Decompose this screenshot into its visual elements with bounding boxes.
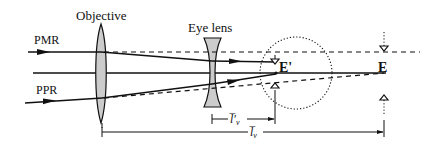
e-up-arrow-icon (380, 95, 388, 100)
dim-short-label: l̅′v (229, 112, 240, 127)
ppr-dashed-extension (104, 73, 384, 98)
e-label: E (378, 60, 387, 75)
telescope-ray-diagram: E' E l̅′v l̅v Objective Eye lens PMR PPR (0, 0, 426, 146)
e-down-arrow-icon (380, 46, 388, 51)
ppr-label: PPR (36, 83, 57, 97)
ppr-ray-exit (212, 74, 276, 84)
pmr-exit-arrow-icon (229, 59, 242, 65)
eye-lens-label: Eye lens (188, 20, 232, 35)
dim-long-label: l̅v (249, 125, 258, 140)
pmr-ray-refracted (101, 52, 212, 61)
objective-label: Objective (76, 8, 127, 23)
e-prime-point (274, 71, 277, 74)
ppr-exit-arrow-icon (227, 79, 240, 85)
pmr-ray-exit (212, 61, 276, 62)
e-prime-label: E' (279, 60, 292, 75)
pmr-arrow-icon (37, 49, 50, 55)
pmr-label: PMR (34, 33, 59, 47)
objective-lens (96, 24, 107, 123)
e-prime-up-arrow-icon (271, 83, 279, 88)
ppr-ray-refracted (102, 84, 212, 98)
ppr-ray-incoming (25, 98, 102, 103)
